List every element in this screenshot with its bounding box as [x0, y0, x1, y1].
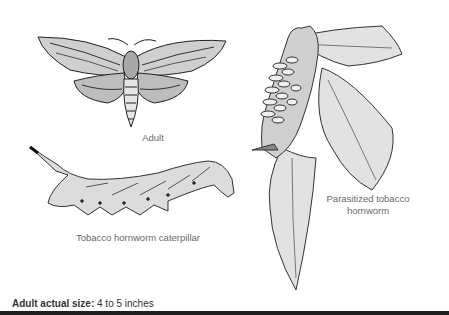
parasitized-caption-line1: Parasitized tobacco — [318, 193, 418, 205]
caterpillar-caption: Tobacco hornworm caterpillar — [58, 232, 218, 244]
parasitized-caption-line2: hornworm — [318, 205, 418, 217]
adult-size-value: 4 to 5 inches — [94, 298, 153, 309]
parasitized-caption: Parasitized tobacco hornworm — [318, 193, 418, 217]
adult-size-label: Adult actual size: — [12, 298, 94, 309]
parasitized-hornworm-on-leaf-illustration — [252, 8, 447, 293]
bottom-divider-bar — [0, 311, 449, 315]
hawk-moth-illustration — [30, 15, 230, 130]
adult-size-note: Adult actual size: 4 to 5 inches — [12, 298, 154, 309]
hornworm-caterpillar-illustration — [28, 143, 253, 223]
